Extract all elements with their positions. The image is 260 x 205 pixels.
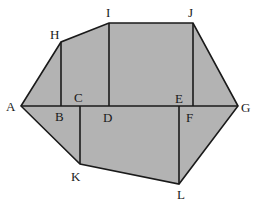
label-H: H xyxy=(50,27,59,42)
label-C: C xyxy=(74,90,83,105)
label-I: I xyxy=(106,5,110,20)
polygon-diagram: A B C D E F G H I J K L xyxy=(0,0,260,205)
label-K: K xyxy=(71,169,81,184)
label-L: L xyxy=(177,187,185,202)
label-D: D xyxy=(103,110,112,125)
label-E: E xyxy=(175,91,183,106)
shaded-polygon xyxy=(21,23,238,184)
label-B: B xyxy=(55,109,64,124)
label-J: J xyxy=(188,5,193,20)
label-F: F xyxy=(186,110,193,125)
label-A: A xyxy=(6,99,16,114)
label-G: G xyxy=(241,100,250,115)
